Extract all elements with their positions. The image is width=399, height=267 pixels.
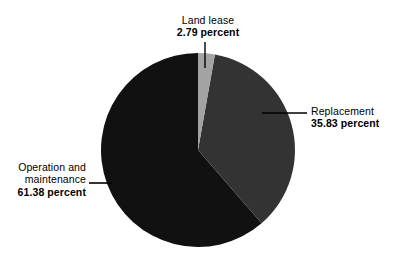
slice-label-replacement-name: Replacement [311,105,399,117]
slice-label-replacement: Replacement 35.83 percent [311,105,399,130]
slice-label-operation-and-maintenance: Operation and maintenance 61.38 percent [4,161,86,198]
pie-chart-graphic [0,0,399,267]
slice-label-operation-and-maintenance-value: 61.38 percent [4,186,86,198]
slice-label-land-lease-value: 2.79 percent [152,26,264,38]
slice-label-land-lease-name: Land lease [152,14,264,26]
slice-label-operation-and-maintenance-name-line-2: maintenance [4,173,86,185]
slice-label-replacement-value: 35.83 percent [311,117,399,129]
pie-chart-figure: Land lease 2.79 percent Replacement 35.8… [0,0,399,267]
slice-label-operation-and-maintenance-name-line-1: Operation and [4,161,86,173]
slice-label-land-lease: Land lease 2.79 percent [152,14,264,39]
